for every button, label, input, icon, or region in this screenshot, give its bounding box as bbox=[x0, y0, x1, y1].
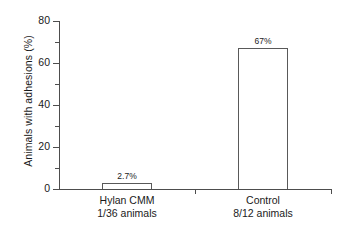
category-sublabel: 8/12 animals bbox=[203, 207, 323, 220]
x-axis-tick bbox=[195, 189, 196, 194]
y-axis-tick-label: 20 bbox=[4, 141, 50, 152]
y-axis-tick-label: 40 bbox=[4, 99, 50, 110]
y-axis-tick-labels: 020406080 bbox=[0, 0, 50, 231]
y-axis-minor-tick bbox=[55, 168, 59, 169]
x-axis-tick bbox=[331, 189, 332, 194]
bar-chart: Animals with adhesions (%) 020406080 2.7… bbox=[0, 0, 340, 231]
y-axis-line bbox=[59, 21, 60, 190]
y-axis-major-tick bbox=[53, 105, 59, 106]
category-sublabel: 1/36 animals bbox=[67, 207, 187, 220]
y-axis-tick-label: 60 bbox=[4, 57, 50, 68]
y-axis-tick-label: 80 bbox=[4, 15, 50, 26]
x-axis-category: Control8/12 animals bbox=[203, 194, 323, 220]
bar-value-label: 67% bbox=[233, 37, 293, 46]
y-axis-minor-tick bbox=[55, 42, 59, 43]
y-axis-major-tick bbox=[53, 189, 59, 190]
y-axis-minor-tick bbox=[55, 84, 59, 85]
y-axis-major-tick bbox=[53, 147, 59, 148]
bar bbox=[238, 48, 288, 189]
category-name: Control bbox=[203, 194, 323, 207]
y-axis-major-tick bbox=[53, 21, 59, 22]
y-axis-major-tick bbox=[53, 63, 59, 64]
category-name: Hylan CMM bbox=[67, 194, 187, 207]
bar-value-label: 2.7% bbox=[97, 172, 157, 181]
bar bbox=[102, 183, 152, 189]
y-axis-tick-label: 0 bbox=[4, 183, 50, 194]
x-axis-category: Hylan CMM1/36 animals bbox=[67, 194, 187, 220]
y-axis-minor-tick bbox=[55, 126, 59, 127]
